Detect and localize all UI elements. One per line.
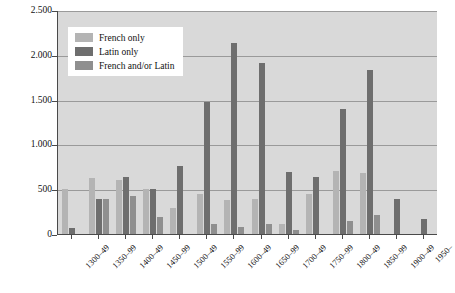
bar-group (302, 11, 329, 234)
bar (143, 189, 149, 234)
x-axis-tick-mark (288, 235, 289, 239)
x-axis-tick-label: 1350–99 (110, 243, 137, 270)
bar (394, 199, 400, 234)
legend-swatch-icon (75, 33, 93, 42)
x-axis-tick-mark (396, 235, 397, 239)
y-axis-tick-label: 1.500 (0, 96, 52, 106)
bar (360, 173, 366, 234)
bar (293, 230, 299, 234)
bar (130, 196, 136, 234)
y-axis-tick-label: 2.500 (0, 6, 52, 16)
x-axis-tick-mark (179, 235, 180, 239)
x-axis-tick-label: 1800–49 (355, 243, 382, 270)
bar (211, 224, 217, 234)
x-axis-tick-mark (261, 235, 262, 239)
x-axis-tick-label: 1300–49 (83, 243, 110, 270)
x-axis-tick-mark (206, 235, 207, 239)
x-axis-tick-label: 1450–99 (165, 243, 192, 270)
bar (116, 180, 122, 234)
bar (197, 194, 203, 234)
x-axis-tick-mark (98, 235, 99, 239)
x-axis-tick-mark (315, 235, 316, 239)
bar (306, 194, 312, 234)
bar (103, 199, 109, 234)
x-axis-tick-label: 1950– (434, 243, 455, 264)
legend-item: Latin only (75, 46, 174, 57)
bar (170, 208, 176, 234)
bar (96, 199, 102, 234)
bar (231, 43, 237, 234)
x-axis-tick-label: 1600–49 (246, 243, 273, 270)
bar (286, 172, 292, 234)
y-axis-tick-label: 500 (0, 185, 52, 195)
bar (150, 189, 156, 234)
x-axis-tick-mark (71, 235, 72, 239)
x-axis-tick-mark (152, 235, 153, 239)
bar-group (248, 11, 275, 234)
x-axis-tick-mark (125, 235, 126, 239)
bar-group (357, 11, 384, 234)
x-axis-tick-label: 1550–99 (219, 243, 246, 270)
bar (89, 178, 95, 234)
bar (123, 177, 129, 234)
x-axis-tick-label: 1850–99 (382, 243, 409, 270)
bar (421, 219, 427, 234)
x-axis-tick-mark (342, 235, 343, 239)
bar-group (275, 11, 302, 234)
bar (313, 177, 319, 234)
bar (259, 63, 265, 234)
y-axis-tick-label: 0 (0, 230, 52, 240)
legend-item: French and/or Latin (75, 60, 174, 71)
x-axis-tick-mark (233, 235, 234, 239)
bar (333, 171, 339, 234)
bar (69, 228, 75, 234)
x-axis-tick-label: 1400–49 (138, 243, 165, 270)
x-axis-tick-label: 1750–99 (328, 243, 355, 270)
x-axis-tick-label: 1500–49 (192, 243, 219, 270)
bar (157, 217, 163, 234)
x-axis-tick-label: 1650–99 (273, 243, 300, 270)
x-axis-tick-label: 1700–49 (300, 243, 327, 270)
bar-group (411, 11, 437, 234)
bar (340, 109, 346, 234)
legend-item-label: Latin only (99, 47, 138, 57)
legend-item-label: French only (99, 33, 145, 43)
bar (238, 227, 244, 234)
bar (224, 200, 230, 234)
y-axis-tick-label: 1.000 (0, 140, 52, 150)
bar-group (329, 11, 356, 234)
bar (266, 224, 272, 234)
legend-swatch-icon (75, 61, 93, 70)
bar (62, 189, 68, 234)
x-axis-tick-mark (369, 235, 370, 239)
chart-legend: French onlyLatin onlyFrench and/or Latin (68, 27, 183, 76)
legend-item: French only (75, 32, 174, 43)
bar (204, 102, 210, 234)
x-axis-tick-mark (423, 235, 424, 239)
bar (374, 215, 380, 234)
bar (367, 70, 373, 234)
bar (177, 166, 183, 234)
y-axis-tick-label: 2.000 (0, 51, 52, 61)
y-axis-tick-mark (52, 235, 57, 236)
bar (279, 224, 285, 234)
bar-group (194, 11, 221, 234)
legend-swatch-icon (75, 47, 93, 56)
legend-item-label: French and/or Latin (99, 61, 174, 71)
bar (252, 199, 258, 234)
bar (347, 221, 353, 234)
bar-group (221, 11, 248, 234)
bar-group (384, 11, 411, 234)
